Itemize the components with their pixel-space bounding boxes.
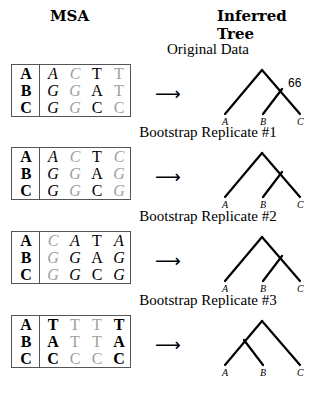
msa-cell: G [40,249,65,266]
phylogenetic-tree: ABC66 [215,61,315,129]
msa-cell: T [86,232,108,250]
msa-table: ACATABGGAGCGGCG [11,231,131,284]
sequence-label: A [12,148,40,166]
phylogenetic-tree: ABC [215,228,315,296]
phylogenetic-tree: ABC [215,312,315,380]
msa-cell: C [86,266,108,284]
msa-cell: G [108,182,131,200]
msa-cell: T [108,65,131,83]
inferred-tree-header: Inferred Tree [217,7,316,43]
msa-cell: C [108,148,131,166]
block-caption: Bootstrap Replicate #1 [100,124,316,141]
leaf-label-c: C [297,367,304,378]
msa-cell: G [40,266,65,284]
sequence-label: A [12,65,40,83]
bootstrap-replicate-block-3: Bootstrap Replicate #3ATTTTBATTACCCCC⟶AB… [0,292,316,380]
msa-row: CCCCC [12,350,131,368]
msa-cell: C [40,350,65,368]
msa-cell: A [40,148,65,166]
block-caption: Bootstrap Replicate #2 [100,208,316,225]
msa-row: BATTA [12,333,131,350]
sequence-label: B [12,82,40,99]
msa-cell: A [64,232,86,250]
msa-cell: C [64,148,86,166]
sequence-label: A [12,316,40,334]
msa-row: ACATA [12,232,131,250]
msa-cell: G [64,266,86,284]
msa-cell: G [108,249,131,266]
msa-cell: T [64,316,86,334]
msa-cell: C [64,65,86,83]
msa-cell: C [64,350,86,368]
msa-cell: T [40,316,65,334]
msa-cell: G [64,82,86,99]
leaf-label-b: B [260,367,266,378]
msa-cell: G [64,165,86,182]
sequence-label: B [12,249,40,266]
msa-cell: G [40,82,65,99]
bootstrap-replicate-block-2: Bootstrap Replicate #2ACATABGGAGCGGCG⟶AB… [0,208,316,296]
msa-row: ATTTT [12,316,131,334]
msa-row: BGGAG [12,249,131,266]
msa-cell: C [40,232,65,250]
msa-cell: T [86,316,108,334]
msa-cell: A [108,333,131,350]
msa-row: CGGCG [12,182,131,200]
msa-cell: G [40,99,65,117]
msa-cell: A [40,65,65,83]
msa-cell: G [40,182,65,200]
msa-cell: A [40,333,65,350]
msa-cell: C [86,99,108,117]
msa-cell: C [86,182,108,200]
msa-cell: A [86,249,108,266]
msa-table: AACTCBGGAGCGGCG [11,147,131,200]
sequence-label: B [12,165,40,182]
sequence-label: A [12,232,40,250]
msa-cell: T [64,333,86,350]
msa-row: AACTC [12,148,131,166]
leaf-label-a: A [221,367,229,378]
msa-cell: G [64,249,86,266]
msa-cell: T [86,148,108,166]
msa-cell: T [108,316,131,334]
msa-cell: A [86,82,108,99]
sequence-label: C [12,99,40,117]
msa-cell: T [86,65,108,83]
sequence-label: C [12,266,40,284]
msa-header: MSA [50,7,89,25]
msa-cell: A [86,165,108,182]
msa-table: AACTTBGGATCGGCC [11,64,131,117]
msa-table: ATTTTBATTACCCCC [11,315,131,368]
msa-row: BGGAT [12,82,131,99]
msa-cell: G [108,165,131,182]
arrow-icon: ⟶ [155,334,181,355]
msa-cell: G [64,99,86,117]
sequence-label: C [12,350,40,368]
arrow-icon: ⟶ [155,83,181,104]
arrow-icon: ⟶ [155,166,181,187]
msa-row: CGGCC [12,99,131,117]
msa-cell: G [108,266,131,284]
arrow-icon: ⟶ [155,250,181,271]
msa-row: CGGCG [12,266,131,284]
msa-row: AACTT [12,65,131,83]
msa-cell: A [108,232,131,250]
block-caption: Bootstrap Replicate #3 [100,292,316,309]
msa-cell: T [108,82,131,99]
original-data-block: Original DataAACTTBGGATCGGCC⟶ABC66 [0,41,316,129]
bootstrap-support-value: 66 [288,76,302,90]
block-caption: Original Data [100,41,316,58]
msa-cell: C [86,350,108,368]
msa-cell: T [86,333,108,350]
msa-cell: G [40,165,65,182]
phylogenetic-tree: ABC [215,144,315,212]
msa-row: BGGAG [12,165,131,182]
sequence-label: C [12,182,40,200]
msa-cell: G [64,182,86,200]
sequence-label: B [12,333,40,350]
msa-cell: C [108,350,131,368]
bootstrap-replicate-block-1: Bootstrap Replicate #1AACTCBGGAGCGGCG⟶AB… [0,124,316,212]
msa-cell: C [108,99,131,117]
